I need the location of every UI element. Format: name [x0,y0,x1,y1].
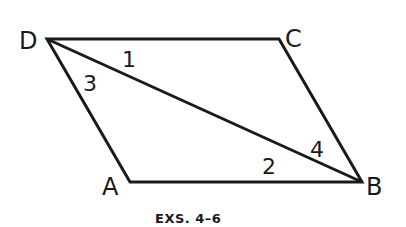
figure-caption: EXS. 4–6 [155,211,221,226]
angle-label-1: 1 [122,47,136,72]
angle-label-2: 2 [262,154,276,179]
vertex-label-d: D [19,27,37,55]
vertex-label-a: A [102,173,119,201]
angle-label-4: 4 [310,137,324,162]
vertex-label-b: B [366,173,382,201]
parallelogram-diagram: D C A B 1 3 2 4 EXS. 4–6 [0,0,406,227]
vertex-label-c: C [285,25,302,53]
angle-label-3: 3 [83,71,97,96]
